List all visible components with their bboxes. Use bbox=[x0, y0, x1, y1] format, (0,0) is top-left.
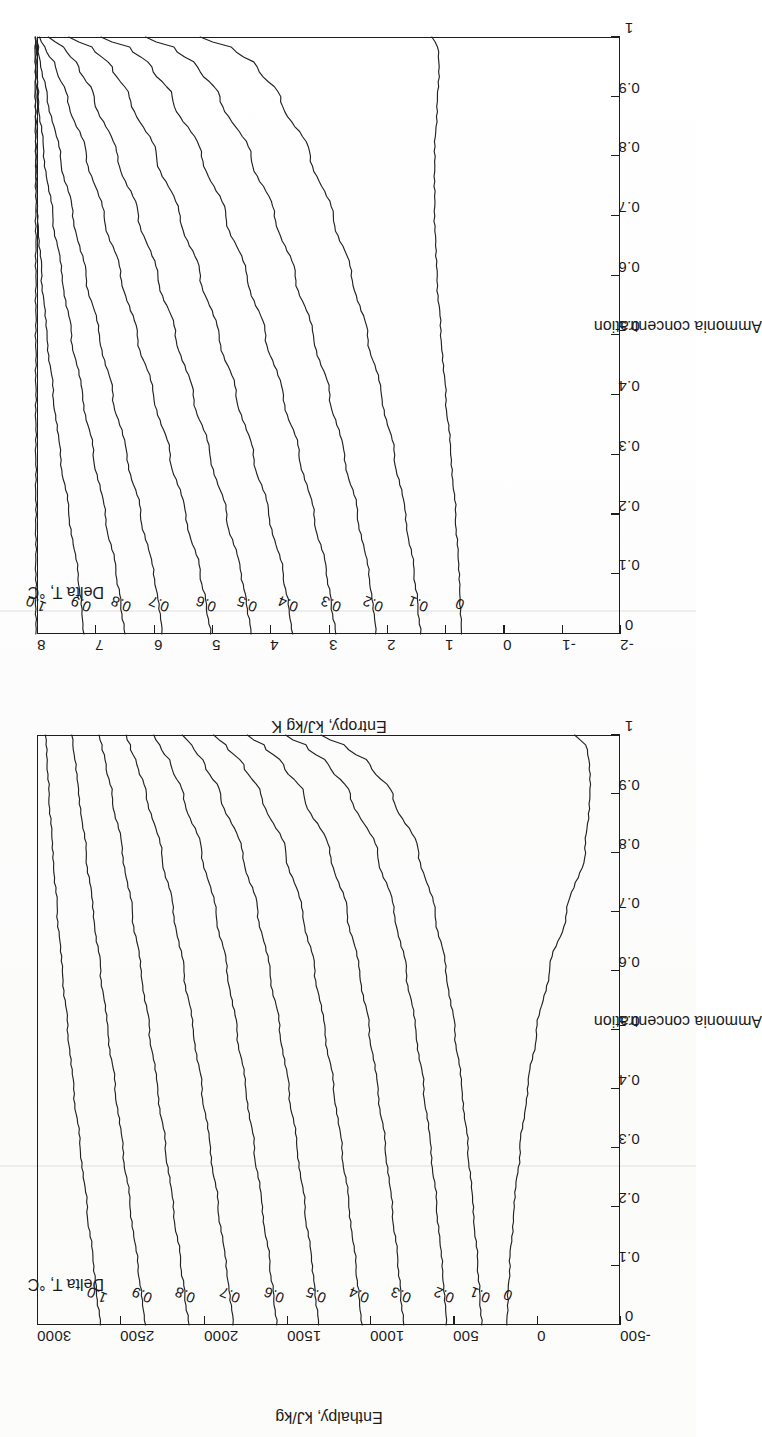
y-tick-label: 6 bbox=[154, 637, 163, 654]
x-axis-title-entropy: Ammonia concentration bbox=[594, 318, 762, 336]
y-tick-label: 0 bbox=[503, 637, 512, 654]
x-tick-label: 0.6 bbox=[618, 259, 639, 276]
y-tick bbox=[270, 625, 271, 634]
y-tick bbox=[562, 625, 563, 634]
y-tick bbox=[620, 1316, 621, 1325]
y-tick bbox=[620, 625, 621, 634]
plot-area-entropy: 00.10.20.30.40.50.60.70.80.91-2-10123456… bbox=[37, 37, 620, 634]
x-tick-label: 0.8 bbox=[618, 836, 639, 853]
y-tick bbox=[37, 1316, 38, 1325]
y-tick-label: 2 bbox=[387, 637, 396, 654]
x-axis-title-enthalpy: Ammonia concentration bbox=[594, 1012, 762, 1030]
y-tick-label: 4 bbox=[270, 637, 279, 654]
y-tick bbox=[287, 1316, 288, 1325]
y-tick-label: 1000 bbox=[370, 1328, 404, 1345]
y-tick-label: -500 bbox=[620, 1328, 651, 1345]
y-tick-label: 1500 bbox=[287, 1328, 321, 1345]
y-tick bbox=[503, 625, 504, 634]
plot-frame bbox=[37, 37, 620, 634]
y-tick-label: 2500 bbox=[120, 1328, 154, 1345]
figure-enthalpy: 00.10.20.30.40.50.60.70.80.91-5000500100… bbox=[0, 700, 696, 1437]
y-axis-title-enthalpy: Enthalpy, kJ/kg bbox=[275, 1408, 382, 1426]
x-tick-label: 0.9 bbox=[618, 777, 639, 794]
x-tick-label: 0.3 bbox=[618, 438, 639, 455]
y-tick-label: 500 bbox=[453, 1328, 479, 1345]
x-tick bbox=[611, 633, 620, 634]
x-tick-label: 0.3 bbox=[618, 1131, 639, 1148]
y-tick bbox=[37, 625, 38, 634]
y-tick-label: -2 bbox=[620, 637, 634, 654]
x-tick-label: 0.9 bbox=[618, 80, 639, 97]
x-tick-label: 0.1 bbox=[618, 1249, 639, 1266]
x-tick-label: 0.2 bbox=[618, 1190, 639, 1207]
y-tick bbox=[453, 1316, 454, 1325]
y-tick-label: 3000 bbox=[37, 1328, 71, 1345]
y-tick-label: 7 bbox=[95, 637, 104, 654]
x-tick bbox=[611, 734, 620, 735]
y-tick-label: 1 bbox=[445, 637, 454, 654]
x-tick-label: 0 bbox=[625, 1308, 634, 1325]
x-tick-label: 1 bbox=[625, 718, 634, 735]
y-tick bbox=[329, 625, 330, 634]
y-tick-label: 0 bbox=[537, 1328, 546, 1345]
rotated-canvas-enthalpy: 00.10.20.30.40.50.60.70.80.91-5000500100… bbox=[37, 735, 620, 1325]
y-tick-label: 8 bbox=[37, 637, 46, 654]
figure-entropy: 00.10.20.30.40.50.60.70.80.91-2-10123456… bbox=[0, 0, 696, 700]
x-tick-label: 0.4 bbox=[618, 1072, 639, 1089]
y-tick-label: 5 bbox=[212, 637, 221, 654]
plot-frame bbox=[37, 735, 620, 1325]
y-tick bbox=[95, 625, 96, 634]
x-tick-label: 0.8 bbox=[618, 139, 639, 156]
x-tick-label: 0.7 bbox=[618, 895, 639, 912]
x-tick-label: 0.2 bbox=[618, 498, 639, 515]
y-tick bbox=[387, 625, 388, 634]
x-tick-label: 0.4 bbox=[618, 378, 639, 395]
plot-area-enthalpy: 00.10.20.30.40.50.60.70.80.91-5000500100… bbox=[37, 735, 620, 1325]
x-tick-label: 0.6 bbox=[618, 954, 639, 971]
y-tick bbox=[154, 625, 155, 634]
y-tick bbox=[370, 1316, 371, 1325]
y-tick-label: 2000 bbox=[204, 1328, 238, 1345]
y-tick bbox=[120, 1316, 121, 1325]
x-tick-label: 0.1 bbox=[618, 557, 639, 574]
x-tick-label: 1 bbox=[625, 20, 634, 37]
y-tick bbox=[445, 625, 446, 634]
y-tick-label: 3 bbox=[329, 637, 338, 654]
x-tick-label: 0 bbox=[625, 617, 634, 634]
y-tick bbox=[537, 1316, 538, 1325]
rotated-canvas-entropy: 00.10.20.30.40.50.60.70.80.91-2-10123456… bbox=[37, 37, 620, 634]
x-tick bbox=[611, 36, 620, 37]
x-tick bbox=[611, 1324, 620, 1325]
y-tick bbox=[212, 625, 213, 634]
y-tick-label: -1 bbox=[562, 637, 576, 654]
y-tick bbox=[204, 1316, 205, 1325]
x-tick-label: 0.7 bbox=[618, 199, 639, 216]
